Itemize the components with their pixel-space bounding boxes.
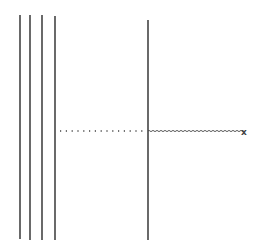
- wavy-path: [148, 130, 244, 131]
- left-plate-group: [20, 15, 55, 240]
- diagram-canvas: x: [0, 0, 257, 252]
- cross-marker-icon: x: [241, 127, 247, 137]
